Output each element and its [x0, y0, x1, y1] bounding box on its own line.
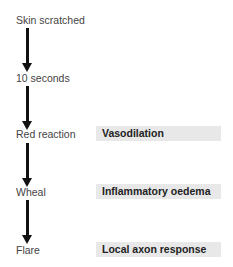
step-10-seconds: 10 seconds	[16, 72, 70, 84]
down-arrow-icon	[26, 28, 29, 64]
flow-diagram: Skin scratched 10 seconds Red reaction V…	[0, 0, 233, 267]
down-arrow-icon	[26, 86, 29, 122]
down-arrow-icon	[26, 143, 29, 179]
down-arrow-icon	[26, 200, 29, 236]
annotation-local-axon-response: Local axon response	[96, 242, 221, 257]
annotation-vasodilation: Vasodilation	[96, 126, 221, 141]
step-wheal: Wheal	[16, 186, 46, 198]
step-skin-scratched: Skin scratched	[16, 14, 85, 26]
annotation-inflammatory-oedema: Inflammatory oedema	[96, 184, 221, 199]
step-red-reaction: Red reaction	[16, 128, 76, 140]
step-flare: Flare	[16, 244, 40, 256]
